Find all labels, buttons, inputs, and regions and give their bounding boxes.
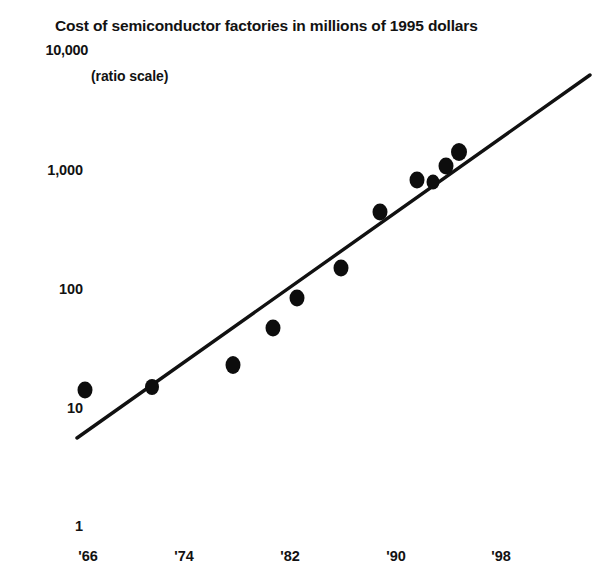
data-point xyxy=(78,382,93,399)
y-axis-tick-100: 100 xyxy=(59,281,83,297)
x-axis-tick-1974: '74 xyxy=(174,548,193,564)
x-axis-tick-1966: '66 xyxy=(78,548,97,564)
x-axis-tick-1990: '90 xyxy=(386,548,405,564)
y-axis-tick-10000: 10,000 xyxy=(45,42,88,58)
data-point xyxy=(266,320,281,337)
trend-line xyxy=(77,75,590,438)
chart-title: Cost of semiconductor factories in milli… xyxy=(55,17,478,35)
plot-area xyxy=(0,0,605,585)
y-axis-tick-10: 10 xyxy=(67,400,83,416)
chart-subtitle: (ratio scale) xyxy=(91,68,168,84)
data-point xyxy=(427,175,440,190)
data-point xyxy=(226,356,241,374)
y-axis-tick-1000: 1,000 xyxy=(47,162,83,178)
data-point xyxy=(290,290,305,307)
data-point xyxy=(373,204,388,221)
x-axis-tick-1998: '98 xyxy=(491,548,510,564)
data-point xyxy=(451,143,467,161)
data-point xyxy=(145,379,159,395)
data-points xyxy=(78,143,468,399)
y-axis-tick-1: 1 xyxy=(75,518,83,534)
data-point xyxy=(334,260,349,277)
chart-figure: Cost of semiconductor factories in milli… xyxy=(0,0,605,585)
data-point xyxy=(410,172,425,189)
x-axis-tick-1982: '82 xyxy=(280,548,299,564)
data-point xyxy=(439,158,454,175)
